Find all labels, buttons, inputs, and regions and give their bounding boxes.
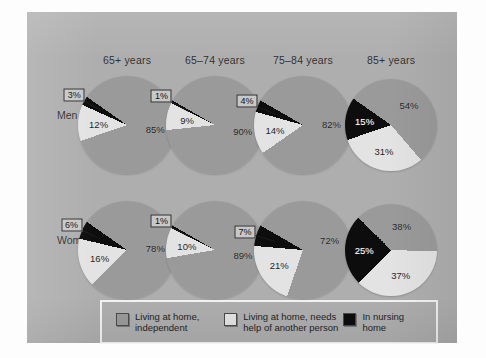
slice-label-1: 12% bbox=[89, 118, 108, 129]
figure-root: 65+ years 65–74 years 75–84 years 85+ ye… bbox=[0, 0, 486, 358]
legend-swatch-independent bbox=[116, 313, 129, 326]
legend-label-needs-help: Living at home, needs help of another pe… bbox=[243, 311, 338, 334]
slice-label-2: 1% bbox=[151, 90, 172, 103]
legend-item-needs-help: Living at home, needs help of another pe… bbox=[224, 311, 343, 334]
legend-label-needs-help-line2: help of another person bbox=[243, 322, 338, 333]
legend-swatch-nursing-home bbox=[343, 313, 356, 326]
slice-label-2: 6% bbox=[61, 219, 82, 232]
legend-label-independent: Living at home, independent bbox=[135, 311, 199, 334]
legend-label-independent-line1: Living at home, bbox=[135, 311, 199, 322]
slice-label-2: 7% bbox=[235, 225, 256, 238]
slice-label-1: 16% bbox=[90, 252, 109, 263]
legend-label-nursing-home-line1: In nursing home bbox=[362, 311, 404, 334]
slice-label-1: 37% bbox=[391, 269, 410, 280]
slice-label-2: 15% bbox=[355, 116, 374, 127]
legend-label-nursing-home: In nursing home bbox=[362, 311, 430, 334]
legend: Living at home, independent Living at ho… bbox=[100, 300, 438, 344]
legend-item-independent: Living at home, independent bbox=[108, 311, 224, 334]
slice-label-2: 25% bbox=[355, 245, 374, 256]
slice-label-1: 14% bbox=[265, 124, 284, 135]
slice-label-1: 31% bbox=[374, 145, 393, 156]
column-header-3: 85+ years bbox=[336, 54, 446, 66]
legend-swatch-needs-help bbox=[224, 313, 237, 326]
chart-panel: 65+ years 65–74 years 75–84 years 85+ ye… bbox=[27, 12, 457, 343]
slice-label-0: 54% bbox=[399, 100, 418, 111]
pie-chart-men-4: 54%31%15% bbox=[336, 70, 446, 180]
legend-item-nursing-home: In nursing home bbox=[343, 311, 430, 334]
slice-label-1: 9% bbox=[180, 114, 194, 125]
slice-label-2: 3% bbox=[64, 88, 85, 101]
legend-label-independent-line2: independent bbox=[135, 322, 187, 333]
slice-label-2: 4% bbox=[236, 95, 257, 108]
pie-chart-women-4: 38%37%25% bbox=[336, 195, 446, 305]
legend-label-needs-help-line1: Living at home, needs bbox=[243, 311, 336, 322]
slice-label-0: 38% bbox=[392, 220, 411, 231]
slice-label-1: 21% bbox=[270, 260, 289, 271]
slice-label-2: 1% bbox=[151, 215, 172, 228]
slice-label-1: 10% bbox=[177, 240, 196, 251]
